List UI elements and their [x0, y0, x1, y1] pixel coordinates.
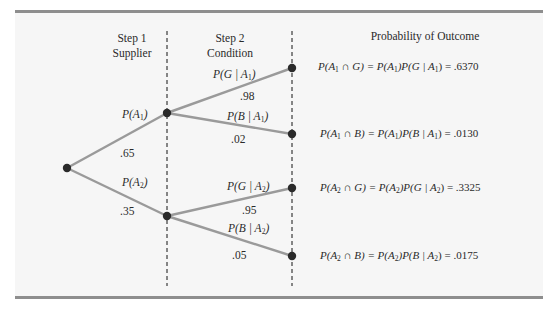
value-P-B-given-A2: .05: [232, 250, 246, 262]
branch-A2: [67, 168, 167, 216]
header-outcome: Probability of Outcome: [335, 29, 515, 44]
header-step2-subtitle: Condition: [190, 46, 270, 61]
value-P-B-given-A1: .02: [231, 134, 245, 146]
outcome-value: .6370: [454, 60, 479, 72]
label-P-G-given-A1: P(G | A1): [213, 69, 256, 82]
node-root: [63, 164, 71, 172]
node-A2: [163, 212, 171, 220]
outcome-A2-and-G: P(A2 ∩ G) = P(A2)P(G | A2) = .3325: [320, 182, 481, 195]
outcome-A1-and-G: P(A1 ∩ G) = P(A1)P(G | A1) = .6370: [318, 61, 479, 74]
value-P-A2: .35: [120, 206, 134, 218]
header-step1-subtitle: Supplier: [92, 46, 172, 61]
label-P-B-given-A2: P(B | A2): [228, 223, 269, 236]
node-A1: [163, 109, 171, 117]
outcome-value: .0175: [453, 249, 478, 261]
node-A1-G: [288, 64, 296, 72]
branch-A1: [67, 113, 167, 168]
header-step2-title: Step 2: [190, 31, 270, 46]
header-step2: Step 2 Condition: [190, 31, 270, 61]
label-P-A2: P(A2): [122, 177, 147, 190]
outcome-A2-and-B: P(A2 ∩ B) = P(A2)P(B | A2) = .0175: [320, 250, 478, 263]
label-P-B-given-A1: P(B | A1): [227, 111, 268, 124]
outcome-value: .3325: [456, 181, 481, 193]
header-step1-title: Step 1: [92, 31, 172, 46]
value-P-A1: .65: [120, 148, 134, 160]
outcome-value: .0130: [453, 127, 478, 139]
node-A2-B: [288, 252, 296, 260]
probability-tree: [0, 0, 555, 315]
node-A2-G: [288, 184, 296, 192]
header-step1: Step 1 Supplier: [92, 31, 172, 61]
label-P-G-given-A2: P(G | A2): [227, 181, 270, 194]
value-P-G-given-A2: .95: [242, 205, 256, 217]
outcome-A1-and-B: P(A1 ∩ B) = P(A1)P(B | A1) = .0130: [320, 128, 478, 141]
node-A1-B: [288, 130, 296, 138]
value-P-G-given-A1: .98: [240, 91, 254, 103]
label-P-A1: P(A1): [122, 109, 147, 122]
